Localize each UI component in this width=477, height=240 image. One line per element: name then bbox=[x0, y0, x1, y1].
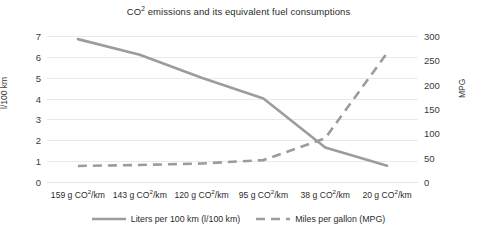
x-axis-tick-label: 120 g CO2/km bbox=[175, 190, 229, 200]
y-axis-right-tick-label: 300 bbox=[424, 31, 458, 42]
y-axis-right-tick-label: 50 bbox=[424, 152, 458, 163]
chart-title: CO2 emissions and its equivalent fuel co… bbox=[0, 6, 477, 17]
x-axis-ticks: 159 g CO2/km143 g CO2/km120 g CO2/km95 g… bbox=[47, 190, 418, 204]
x-axis-tick-label: 20 g CO2/km bbox=[362, 190, 411, 200]
legend-item-label: Liters per 100 km (l/100 km) bbox=[131, 214, 241, 224]
legend-item[interactable]: Liters per 100 km (l/100 km) bbox=[92, 214, 241, 224]
y-axis-left-tick-label: 1 bbox=[0, 156, 41, 167]
chart-legend: Liters per 100 km (l/100 km)Miles per ga… bbox=[0, 214, 477, 224]
y-axis-right-tick-label: 150 bbox=[424, 104, 458, 115]
y-axis-left-title: l/100 km bbox=[0, 49, 9, 109]
legend-item-label: Miles per gallon (MPG) bbox=[295, 214, 385, 224]
y-axis-right-ticks: 050100150200250300 bbox=[424, 36, 458, 182]
y-axis-right-tick-label: 250 bbox=[424, 55, 458, 66]
y-axis-right-tick-label: 100 bbox=[424, 128, 458, 139]
legend-item[interactable]: Miles per gallon (MPG) bbox=[256, 214, 385, 224]
chart-title-prefix: CO bbox=[127, 6, 141, 17]
chart-container: CO2 emissions and its equivalent fuel co… bbox=[0, 0, 477, 240]
y-axis-left-tick-label: 0 bbox=[0, 177, 41, 188]
x-axis-tick-label: 143 g CO2/km bbox=[113, 190, 167, 200]
y-axis-right-tick-label: 0 bbox=[424, 177, 458, 188]
y-axis-left-tick-label: 7 bbox=[0, 31, 41, 42]
chart-title-rest: emissions and its equivalent fuel consum… bbox=[145, 6, 350, 17]
y-axis-right-title: MPG bbox=[457, 79, 467, 98]
series-line-liters bbox=[78, 39, 387, 166]
x-axis-tick-label: 38 g CO2/km bbox=[301, 190, 350, 200]
series-layer bbox=[47, 36, 418, 182]
plot-area bbox=[47, 36, 418, 182]
y-axis-left-tick-label: 3 bbox=[0, 114, 41, 125]
legend-line-solid-icon bbox=[92, 215, 126, 223]
legend-line-dashed-icon bbox=[256, 215, 290, 223]
x-axis-tick-label: 159 g CO2/km bbox=[51, 190, 105, 200]
x-axis-tick-label: 95 g CO2/km bbox=[239, 190, 288, 200]
y-axis-left-tick-label: 2 bbox=[0, 135, 41, 146]
y-axis-right-tick-label: 200 bbox=[424, 79, 458, 90]
gridline bbox=[47, 182, 418, 183]
series-line-mpg bbox=[78, 53, 387, 166]
